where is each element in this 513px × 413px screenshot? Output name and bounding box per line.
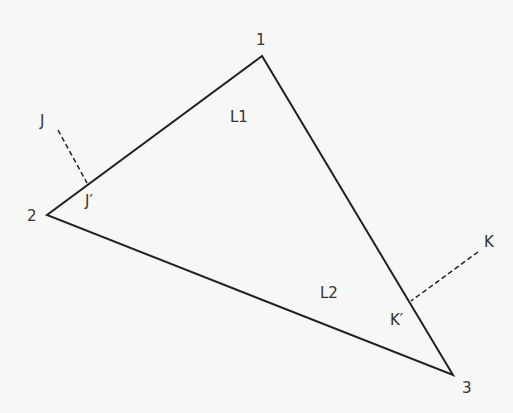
region-label-l1: L1	[230, 108, 248, 126]
vertex-label-2: 2	[27, 207, 37, 225]
vertex-label-3: 3	[462, 379, 472, 397]
region-label-l2: L2	[320, 284, 338, 302]
projection-line-j	[58, 130, 87, 183]
point-label-k: K	[484, 233, 495, 251]
vertex-label-1: 1	[256, 31, 266, 49]
triangle-diagram: 1 2 3 L1 L2 J J′ K K′	[0, 0, 513, 413]
foot-label-j-prime: J′	[84, 192, 93, 210]
projection-line-k	[411, 252, 478, 301]
foot-label-k-prime: K′	[390, 311, 404, 329]
point-label-j: J	[39, 112, 44, 130]
